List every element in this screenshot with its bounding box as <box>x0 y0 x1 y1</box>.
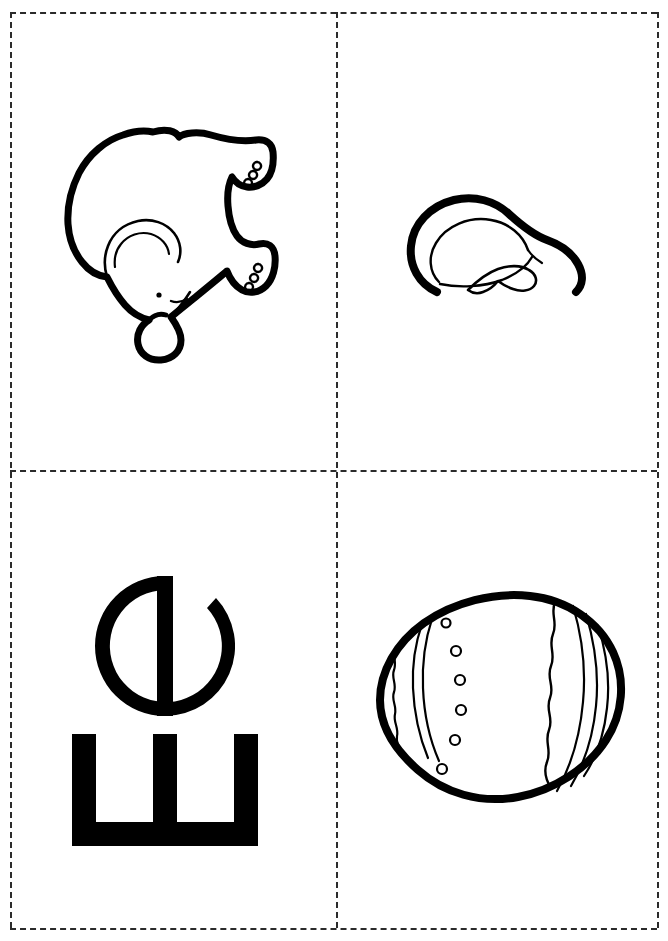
egg-drawing <box>368 588 630 810</box>
card-letters-ee <box>10 470 336 928</box>
elephant-drawing <box>48 109 298 374</box>
lowercase-e-glyph <box>95 572 235 720</box>
ear-drawing <box>399 174 599 309</box>
cut-line-bottom <box>10 928 657 930</box>
card-ear <box>336 12 662 470</box>
letter-stack <box>72 572 258 846</box>
card-elephant <box>10 12 336 470</box>
flashcard-sheet <box>0 0 668 941</box>
card-egg <box>336 470 662 928</box>
uppercase-e-glyph <box>72 734 258 846</box>
